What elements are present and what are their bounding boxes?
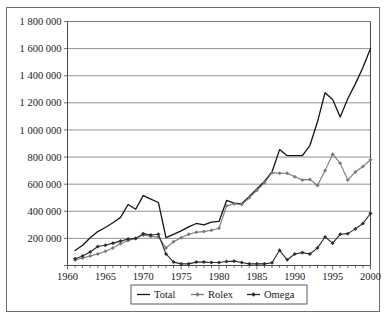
x-tick-label-1990: 1990 bbox=[284, 271, 305, 282]
marker-omega-1983 bbox=[240, 261, 244, 265]
marker-rolex-1980 bbox=[217, 226, 221, 230]
series-line-total bbox=[75, 49, 370, 251]
legend-label-total: Total bbox=[154, 289, 176, 300]
figure-container: 200 000400 000600 000800 0001 000 0001 2… bbox=[0, 0, 386, 319]
marker-rolex-1976 bbox=[187, 233, 191, 237]
marker-rolex-1979 bbox=[210, 229, 214, 233]
x-tick-marks bbox=[68, 266, 371, 270]
x-tick-label-1960: 1960 bbox=[57, 271, 78, 282]
marker-rolex-1977 bbox=[195, 231, 199, 235]
marker-omega-1991 bbox=[301, 251, 305, 255]
marker-rolex-1963 bbox=[88, 254, 92, 258]
marker-omega-1982 bbox=[232, 259, 236, 263]
legend-label-rolex: Rolex bbox=[208, 289, 234, 300]
y-tick-label-1800000: 1 800 000 bbox=[20, 16, 62, 27]
x-tick-label-1970: 1970 bbox=[133, 271, 154, 282]
line-chart: 200 000400 000600 000800 0001 000 0001 2… bbox=[0, 0, 386, 319]
marker-rolex-1964 bbox=[96, 252, 100, 256]
series-total bbox=[75, 49, 370, 251]
y-tick-label-800000: 800 000 bbox=[27, 152, 61, 163]
x-tick-label-1965: 1965 bbox=[95, 271, 116, 282]
y-tick-label-200000: 200 000 bbox=[27, 233, 61, 244]
y-tick-label-1400000: 1 400 000 bbox=[20, 70, 62, 81]
x-tick-label-2000: 2000 bbox=[360, 271, 381, 282]
legend-label-omega: Omega bbox=[264, 289, 295, 300]
y-tick-label-400000: 400 000 bbox=[27, 206, 61, 217]
y-tick-marks bbox=[64, 22, 68, 266]
marker-omega-1977 bbox=[195, 260, 199, 264]
marker-omega-1972 bbox=[157, 233, 161, 237]
y-tick-label-1000000: 1 000 000 bbox=[20, 125, 62, 136]
y-tick-label-1200000: 1 200 000 bbox=[20, 97, 62, 108]
marker-omega-1978 bbox=[202, 260, 206, 264]
y-tick-label-600000: 600 000 bbox=[27, 179, 61, 190]
marker-omega-1965 bbox=[104, 243, 108, 247]
marker-rolex-1991 bbox=[301, 178, 305, 182]
marker-omega-1967 bbox=[119, 239, 123, 243]
marker-rolex-1965 bbox=[104, 250, 108, 254]
marker-rolex-1978 bbox=[202, 230, 206, 234]
y-tick-label-1600000: 1 600 000 bbox=[20, 43, 62, 54]
gridlines bbox=[68, 22, 371, 239]
marker-rolex-1989 bbox=[285, 172, 289, 176]
marker-omega-1966 bbox=[111, 241, 115, 245]
marker-rolex-1990 bbox=[293, 175, 297, 179]
x-tick-label-1985: 1985 bbox=[246, 271, 267, 282]
series-rolex bbox=[73, 153, 372, 262]
x-tick-label-1980: 1980 bbox=[209, 271, 230, 282]
x-tick-labels: 196019651970197519801985199019952000 bbox=[57, 271, 381, 282]
y-tick-labels: 200 000400 000600 000800 0001 000 0001 2… bbox=[20, 16, 62, 244]
marker-rolex-1988 bbox=[278, 172, 282, 176]
marker-omega-1980 bbox=[217, 261, 221, 265]
marker-omega-1979 bbox=[210, 261, 214, 265]
x-tick-label-1975: 1975 bbox=[171, 271, 192, 282]
chart-legend: TotalRolexOmega bbox=[131, 285, 307, 304]
x-tick-label-1995: 1995 bbox=[322, 271, 343, 282]
marker-omega-1981 bbox=[225, 260, 229, 264]
